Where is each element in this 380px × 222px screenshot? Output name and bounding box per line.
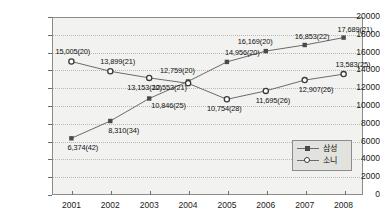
legend: 삼성 소니 (292, 140, 352, 171)
legend-item-samsung[interactable]: 삼성 (296, 143, 348, 155)
data-point-label: 10,754(28) (207, 105, 242, 113)
data-point-marker-square (225, 60, 229, 64)
data-point-marker-circle (341, 72, 346, 77)
legend-label-sony: 소니 (320, 156, 337, 166)
data-point-label: 8,310(34) (108, 127, 139, 135)
data-point-marker-circle (69, 59, 74, 64)
data-point-marker-square (341, 35, 345, 39)
data-point-label: 16,853(22) (295, 33, 330, 41)
legend-label-samsung: 삼성 (320, 144, 337, 154)
data-point-label: 13,583(25) (336, 61, 371, 69)
data-point-label: 14,956(20) (225, 49, 260, 57)
data-point-label: 11,695(26) (256, 97, 290, 105)
data-point-label: 17,689(21) (338, 26, 373, 34)
data-point-marker-square (147, 96, 151, 100)
data-point-label: 6,374(42) (67, 144, 98, 152)
data-point-marker-square (303, 43, 307, 47)
data-point-marker-circle (224, 97, 229, 102)
data-point-label: 13,899(21) (100, 58, 135, 66)
data-point-label: 12,907(26) (299, 86, 334, 94)
data-point-marker-square (264, 49, 268, 53)
data-point-label: 15,005(20) (55, 48, 90, 56)
legend-item-sony[interactable]: 소니 (296, 155, 348, 167)
data-point-label: 16,169(20) (238, 38, 273, 46)
legend-marker-square-icon (296, 144, 320, 154)
line-chart: 0200040006000800010000120001400016000180… (0, 0, 380, 222)
data-point-marker-circle (147, 75, 152, 80)
data-point-label: 12,759(20) (160, 67, 195, 75)
data-point-marker-circle (302, 78, 307, 83)
data-point-label: 12,553(21) (152, 84, 187, 92)
data-point-marker-circle (108, 69, 113, 74)
data-point-marker-circle (263, 88, 268, 93)
data-point-marker-square (69, 136, 73, 140)
legend-marker-circle-icon (296, 156, 320, 166)
data-point-marker-square (108, 119, 112, 123)
data-point-label: 10,846(25) (151, 102, 186, 110)
